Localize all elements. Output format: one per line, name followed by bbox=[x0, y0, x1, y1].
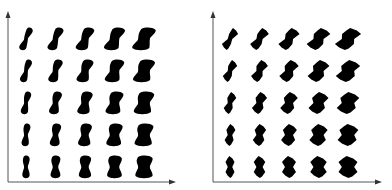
smooth-shape-r3-c5 bbox=[134, 92, 154, 115]
angular-shape-r5-c1 bbox=[226, 156, 235, 178]
smooth-shape-r2-c4 bbox=[105, 60, 124, 83]
smooth-shape-r3-c2 bbox=[49, 92, 62, 115]
smooth-shape-r2-c5 bbox=[133, 60, 155, 83]
angular-shape-grid bbox=[196, 0, 392, 190]
shape-grid bbox=[19, 28, 156, 179]
angular-shape-r2-c2 bbox=[251, 60, 268, 82]
angular-shape-r4-c2 bbox=[253, 124, 266, 146]
x-axis-arrow-icon bbox=[169, 180, 176, 185]
smooth-shape-r1-c2 bbox=[47, 28, 63, 51]
smooth-shape-r4-c5 bbox=[135, 124, 154, 147]
smooth-shape-r4-c3 bbox=[78, 124, 92, 147]
angular-shape-r1-c4 bbox=[307, 28, 331, 50]
angular-shape-r5-c4 bbox=[310, 156, 327, 178]
y-axis-arrow-icon bbox=[6, 11, 11, 18]
angular-shape-r3-c4 bbox=[308, 92, 328, 114]
angular-shape-r3-c2 bbox=[252, 92, 267, 114]
smooth-shape-r2-c1 bbox=[20, 60, 32, 83]
smooth-shape-r3-c4 bbox=[106, 92, 124, 115]
angular-shape-r5-c5 bbox=[339, 156, 358, 178]
smooth-shape-r1-c4 bbox=[104, 28, 125, 51]
smooth-shape-r5-c4 bbox=[107, 156, 122, 179]
smooth-shape-r2-c3 bbox=[77, 60, 94, 83]
smooth-shape-r1-c1 bbox=[19, 28, 33, 51]
angular-shape-r4-c3 bbox=[281, 124, 297, 146]
angular-shape-r1-c1 bbox=[222, 28, 238, 50]
smooth-shape-r4-c4 bbox=[106, 124, 122, 147]
shape-grid bbox=[222, 28, 361, 178]
angular-shape-r3-c1 bbox=[224, 92, 237, 114]
angular-shape-r3-c5 bbox=[337, 92, 360, 114]
smooth-shape-r2-c2 bbox=[48, 60, 62, 83]
angular-shape-r1-c2 bbox=[250, 28, 269, 50]
smooth-shape-r4-c1 bbox=[22, 124, 31, 147]
x-axis-arrow-icon bbox=[375, 180, 382, 185]
angular-shape-r2-c4 bbox=[308, 60, 330, 82]
panel-angular-shapes bbox=[196, 0, 392, 190]
angular-shape-r3-c3 bbox=[280, 92, 298, 114]
angular-shape-r2-c5 bbox=[336, 60, 360, 82]
angular-shape-r5-c2 bbox=[254, 156, 266, 178]
y-axis-arrow-icon bbox=[211, 11, 216, 18]
smooth-shape-grid bbox=[0, 0, 196, 190]
angular-shape-r4-c1 bbox=[225, 124, 236, 146]
angular-shape-r4-c5 bbox=[338, 124, 359, 146]
smooth-shape-r5-c2 bbox=[51, 156, 61, 179]
panel-smooth-shapes bbox=[0, 0, 196, 190]
smooth-shape-r5-c5 bbox=[135, 156, 152, 179]
smooth-shape-r1-c5 bbox=[132, 28, 156, 51]
smooth-shape-r3-c1 bbox=[21, 92, 31, 115]
angular-shape-r5-c3 bbox=[282, 156, 296, 178]
angular-shape-r1-c5 bbox=[335, 28, 361, 50]
smooth-shape-r3-c3 bbox=[77, 92, 92, 115]
angular-shape-r2-c3 bbox=[279, 60, 298, 82]
smooth-shape-r5-c1 bbox=[22, 156, 29, 179]
angular-shape-r1-c3 bbox=[278, 28, 299, 50]
smooth-shape-r5-c3 bbox=[79, 156, 91, 179]
smooth-shape-r1-c3 bbox=[76, 28, 95, 51]
angular-shape-r4-c4 bbox=[309, 124, 327, 146]
angular-shape-r2-c1 bbox=[223, 60, 237, 82]
smooth-shape-r4-c2 bbox=[50, 124, 61, 147]
